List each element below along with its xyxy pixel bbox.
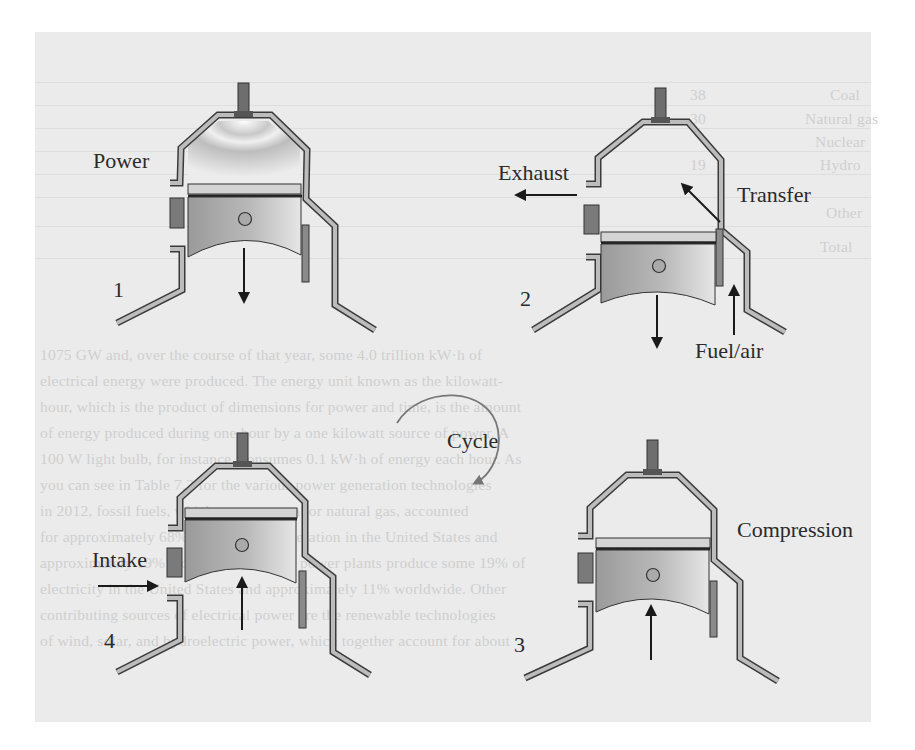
spark-plug-icon: [655, 88, 666, 119]
piston-ring: [601, 232, 716, 242]
stage-2-exhaust-transfer: [520, 88, 785, 343]
piston-ring: [188, 184, 301, 194]
wrist-pin: [239, 213, 252, 226]
transfer-arrow-icon: [685, 187, 720, 222]
label-compression: Compression: [737, 517, 853, 543]
label-exhaust: Exhaust: [498, 160, 569, 186]
wrist-pin: [647, 569, 660, 582]
engine-cycle-diagram: [0, 0, 915, 750]
label-transfer: Transfer: [737, 182, 811, 208]
stage-number-4: 4: [104, 628, 115, 654]
piston-ring: [185, 508, 297, 518]
spark-plug-icon: [237, 433, 248, 463]
stage-1-power: [117, 83, 375, 330]
exhaust-port: [584, 205, 599, 234]
exhaust-port: [167, 548, 182, 577]
transfer-port: [710, 581, 717, 637]
label-intake: Intake: [92, 547, 147, 573]
transfer-port: [299, 571, 306, 628]
label-cycle: Cycle: [447, 428, 498, 454]
stage-number-3: 3: [514, 632, 525, 658]
piston-ring: [596, 538, 710, 548]
exhaust-port: [578, 553, 593, 583]
stage-3-compression: [525, 440, 778, 681]
stage-number-1: 1: [113, 277, 124, 303]
exhaust-port: [170, 198, 184, 228]
cylinder-wall: [586, 122, 785, 332]
transfer-port: [302, 225, 309, 282]
spark-plug-icon: [647, 440, 658, 471]
transfer-port: [716, 229, 723, 286]
label-fuel-air: Fuel/air: [695, 338, 763, 364]
spark-plug-icon: [238, 83, 249, 113]
label-power: Power: [93, 148, 149, 174]
wrist-pin: [236, 539, 249, 552]
wrist-pin: [653, 260, 666, 273]
stage-number-2: 2: [520, 286, 531, 312]
